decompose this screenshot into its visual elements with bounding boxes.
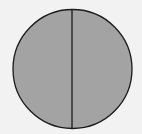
diagram-canvas	[0, 0, 142, 134]
halved-circle-diagram	[0, 0, 142, 134]
